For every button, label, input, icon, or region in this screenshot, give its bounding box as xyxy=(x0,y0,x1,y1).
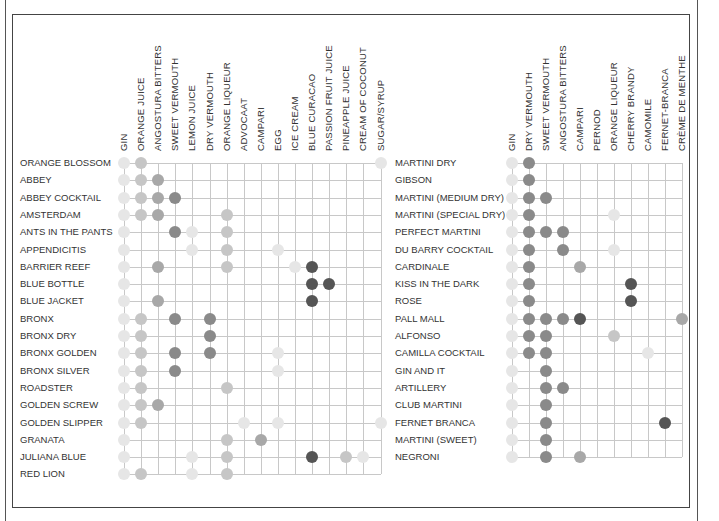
gridline-horizontal xyxy=(124,474,381,475)
row-label: ORANGE BLOSSOM xyxy=(20,157,111,169)
row-label: BRONX DRY xyxy=(20,330,76,342)
ingredient-dot xyxy=(152,192,164,204)
ingredient-dot xyxy=(659,417,671,429)
ingredient-dot xyxy=(557,313,569,325)
ingredient-dot xyxy=(221,226,233,238)
gridline-horizontal xyxy=(512,440,682,441)
row-label: BRONX SILVER xyxy=(20,365,90,377)
ingredient-dot xyxy=(540,226,552,238)
row-label: PERFECT MARTINI xyxy=(395,226,481,238)
gridline-horizontal xyxy=(124,353,381,354)
gridline-vertical xyxy=(563,163,564,457)
ingredient-dot xyxy=(135,157,147,169)
ingredient-dot xyxy=(608,330,620,342)
ingredient-dot xyxy=(118,434,130,446)
row-label: MARTINI DRY xyxy=(395,157,456,169)
ingredient-dot xyxy=(540,365,552,377)
ingredient-dot xyxy=(625,295,637,307)
column-header: SWEET VERMOUTH xyxy=(169,58,180,151)
column-header: CAMOMILE xyxy=(642,99,653,151)
column-header: GIN xyxy=(506,134,517,152)
ingredient-dot xyxy=(169,365,181,377)
column-header: LEMON JUICE xyxy=(186,85,197,151)
ingredient-dot xyxy=(523,313,535,325)
row-label: BLUE BOTTLE xyxy=(20,278,84,290)
gridline-horizontal xyxy=(124,371,381,372)
row-label: GIBSON xyxy=(395,174,432,186)
gridline-vertical xyxy=(614,163,615,457)
ingredient-dot xyxy=(375,417,387,429)
gridline-horizontal xyxy=(124,284,381,285)
column-header: ANGOSTURA BITTERS xyxy=(557,45,568,151)
row-label: MARTINI (SWEET) xyxy=(395,434,477,446)
ingredient-dot xyxy=(204,347,216,359)
gridline-horizontal xyxy=(512,388,682,389)
row-label: ARTILLERY xyxy=(395,382,446,394)
gridline-horizontal xyxy=(512,284,682,285)
column-header: CRÈME DE MENTHE xyxy=(676,55,687,151)
gridline-horizontal xyxy=(512,250,682,251)
ingredient-dot xyxy=(523,192,535,204)
ingredient-dot xyxy=(118,209,130,221)
ingredient-dot xyxy=(169,313,181,325)
column-header: PASSION FRUIT JUICE xyxy=(323,45,334,151)
ingredient-dot xyxy=(506,451,518,463)
ingredient-dot xyxy=(221,209,233,221)
column-header: CAMPARI xyxy=(255,107,266,151)
ingredient-dot xyxy=(272,417,284,429)
row-label: APPENDICITIS xyxy=(20,244,86,256)
ingredient-dot xyxy=(118,278,130,290)
row-label: ALFONSO xyxy=(395,330,440,342)
ingredient-dot xyxy=(540,330,552,342)
ingredient-dot xyxy=(135,417,147,429)
row-label: ABBEY COCKTAIL xyxy=(20,192,101,204)
ingredient-dot xyxy=(221,434,233,446)
row-label: ANTS IN THE PANTS xyxy=(20,226,113,238)
gridline-vertical xyxy=(529,163,530,457)
row-label: GOLDEN SLIPPER xyxy=(20,417,103,429)
ingredient-dot xyxy=(540,313,552,325)
column-header: PINEAPPLE JUICE xyxy=(340,65,351,151)
row-label: GIN AND IT xyxy=(395,365,445,377)
ingredient-dot xyxy=(574,313,586,325)
column-header: ICE CREAM xyxy=(289,96,300,151)
ingredient-dot xyxy=(204,313,216,325)
gridline-vertical xyxy=(597,163,598,457)
row-label: GOLDEN SCREW xyxy=(20,399,98,411)
row-label: ABBEY xyxy=(20,174,52,186)
ingredient-dot xyxy=(506,209,518,221)
ingredient-dot xyxy=(221,382,233,394)
ingredient-dot xyxy=(118,313,130,325)
row-label: GRANATA xyxy=(20,434,65,446)
column-header: FERNET-BRANCA xyxy=(659,68,670,151)
ingredient-dot xyxy=(221,261,233,273)
ingredient-dot xyxy=(557,226,569,238)
ingredient-dot xyxy=(523,330,535,342)
frame-outer-right-line xyxy=(697,0,698,521)
ingredient-dot xyxy=(506,192,518,204)
ingredient-dot xyxy=(118,330,130,342)
ingredient-dot xyxy=(540,192,552,204)
ingredient-dot xyxy=(506,434,518,446)
row-label: BARRIER REEF xyxy=(20,261,90,273)
ingredient-dot xyxy=(375,157,387,169)
gridline-vertical xyxy=(682,163,683,457)
ingredient-dot xyxy=(272,365,284,377)
ingredient-dot xyxy=(523,244,535,256)
gridline-horizontal xyxy=(124,163,381,164)
gridline-horizontal xyxy=(124,250,381,251)
ingredient-dot xyxy=(221,244,233,256)
ingredient-dot xyxy=(506,278,518,290)
ingredient-dot xyxy=(272,244,284,256)
gridline-vertical xyxy=(580,163,581,457)
column-header: ORANGE LIQUEUR xyxy=(221,62,232,151)
chart-frame xyxy=(12,14,690,508)
ingredient-dot xyxy=(152,261,164,273)
ingredient-dot xyxy=(506,382,518,394)
ingredient-dot xyxy=(118,365,130,377)
gridline-horizontal xyxy=(512,423,682,424)
ingredient-dot xyxy=(135,330,147,342)
ingredient-dot xyxy=(608,209,620,221)
ingredient-dot xyxy=(152,209,164,221)
ingredient-dot xyxy=(118,417,130,429)
